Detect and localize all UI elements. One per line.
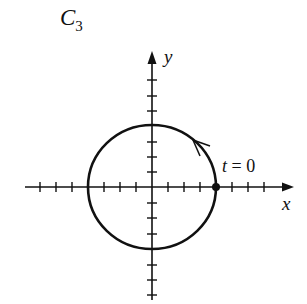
- x-axis-arrow-icon: [282, 183, 294, 192]
- parametric-curve-diagram: [0, 0, 307, 304]
- y-axis-arrow-icon: [148, 51, 157, 64]
- start-point-marker: [212, 183, 220, 191]
